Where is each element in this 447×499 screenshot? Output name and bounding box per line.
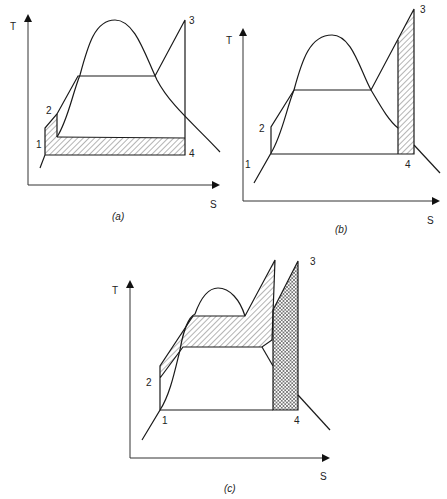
expansion-line-c: [262, 347, 273, 366]
point-4-a: 4: [189, 148, 195, 159]
panel-b: T S 1 2 3 4 (b): [226, 4, 440, 235]
crosshatch-strip-c: [273, 261, 298, 410]
cycle-outer-c: [142, 260, 275, 440]
point-2-c: 2: [146, 377, 152, 388]
point-4-b: 4: [405, 159, 411, 170]
point-3-a: 3: [189, 15, 195, 26]
panel-a: T S 1 2 3 4 (a): [10, 15, 220, 222]
t-label-a: T: [10, 21, 16, 32]
point-1-a: 1: [36, 139, 42, 150]
caption-a: (a): [112, 211, 124, 222]
s-label-a: S: [210, 199, 217, 210]
point-1-b: 1: [245, 159, 251, 170]
point-3-c: 3: [310, 256, 316, 267]
saturation-dome-a: [57, 20, 220, 152]
vapor-line-c: [298, 395, 330, 430]
point-1-c: 1: [162, 415, 168, 426]
caption-c: (c): [224, 483, 236, 494]
point-2-b: 2: [259, 123, 265, 134]
point-4-c: 4: [294, 415, 300, 426]
saturation-dome-b: [271, 35, 398, 153]
s-label-c: S: [320, 471, 327, 482]
figure-canvas: T S 1 2 3 4 (a) T S 1 2 3 4 (b): [0, 0, 447, 499]
point-2-a: 2: [46, 105, 52, 116]
caption-b: (b): [335, 224, 347, 235]
t-label-b: T: [226, 35, 232, 46]
hatched-region-a: [45, 115, 185, 155]
hatched-strip-b: [398, 9, 414, 154]
s-label-b: S: [427, 215, 434, 226]
point-3-b: 3: [420, 4, 426, 15]
vapor-line-b: [414, 145, 440, 173]
panel-c: T S 1 2 3 4 (c): [112, 256, 330, 494]
t-label-c: T: [112, 285, 118, 296]
